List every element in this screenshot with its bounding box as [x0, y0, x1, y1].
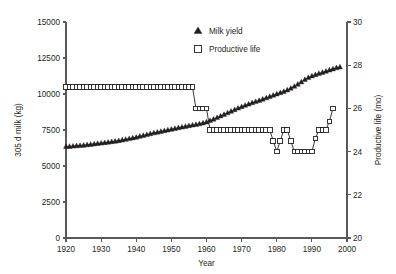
- productive-life-marker: [190, 85, 195, 90]
- series-group: [64, 64, 343, 154]
- y2-tick-label: 24: [353, 148, 363, 157]
- y-tick-label: 0: [55, 234, 60, 243]
- y2-tick-label: 30: [353, 18, 363, 27]
- x-tick-label: 2000: [338, 245, 357, 254]
- y2-axis-title: Productive life (mo): [374, 94, 383, 165]
- x-tick-label: 1980: [268, 245, 287, 254]
- x-tick-label: 1920: [57, 245, 76, 254]
- legend-marker-productive-life-icon: [195, 45, 202, 52]
- y-tick-label: 7500: [42, 126, 61, 135]
- x-tick-label: 1950: [162, 245, 181, 254]
- productive-life-marker: [267, 128, 272, 133]
- y2-tick-label: 28: [353, 61, 363, 70]
- productive-life-marker: [285, 128, 290, 133]
- y2-tick-label: 20: [353, 234, 363, 243]
- productive-life-marker: [274, 149, 279, 154]
- legend-label-productive-life: Productive life: [209, 45, 261, 54]
- productive-life-marker: [310, 149, 315, 154]
- y-tick-label: 12500: [37, 54, 60, 63]
- productive-life-marker: [278, 139, 283, 144]
- x-tick-label: 1940: [127, 245, 146, 254]
- productive-life-marker: [313, 136, 318, 141]
- x-tick-label: 1960: [197, 245, 216, 254]
- productive-life-marker: [289, 139, 294, 144]
- productive-life-marker: [327, 119, 332, 124]
- x-tick-label: 1930: [92, 245, 111, 254]
- x-tick-label: 1990: [303, 245, 322, 254]
- y2-tick-label: 26: [353, 104, 363, 113]
- y-tick-label: 10000: [37, 90, 60, 99]
- y-tick-label: 15000: [37, 18, 60, 27]
- chart-figure: 1920193019401950196019701980199020000250…: [0, 0, 396, 274]
- y-tick-label: 5000: [42, 162, 61, 171]
- productive-life-marker: [271, 139, 276, 144]
- productive-life-marker: [331, 106, 336, 111]
- y-axis-title: 305 d milk (kg): [14, 103, 23, 157]
- y2-tick-label: 22: [353, 191, 363, 200]
- y-tick-label: 2500: [42, 198, 61, 207]
- chart-canvas: 1920193019401950196019701980199020000250…: [0, 0, 396, 274]
- legend-marker-milk-yield-icon: [194, 27, 202, 33]
- x-tick-label: 1970: [233, 245, 252, 254]
- legend-group: Milk yieldProductive life: [194, 27, 261, 54]
- legend-label-milk-yield: Milk yield: [209, 27, 243, 36]
- productive-life-marker: [204, 106, 209, 111]
- productive-life-marker: [324, 128, 329, 133]
- milk-yield-marker: [337, 64, 342, 69]
- x-axis-title: Year: [198, 259, 215, 268]
